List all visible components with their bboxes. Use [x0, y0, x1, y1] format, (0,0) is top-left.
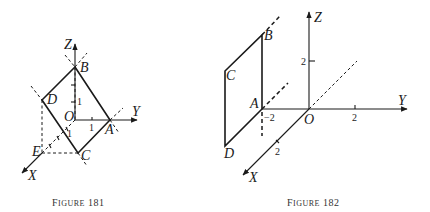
- z-tick-label: 2: [301, 56, 306, 67]
- y-tick-label: 2: [352, 112, 357, 123]
- point-b-label: B: [264, 28, 273, 43]
- point-e-label: E: [31, 144, 41, 159]
- line-dc-ext: [31, 86, 42, 100]
- z-tick-label: 1: [77, 96, 82, 107]
- figure-181-caption: FIGURE 181: [52, 197, 105, 208]
- point-c-label: C: [81, 148, 91, 163]
- figure-182-caption: FIGURE 182: [287, 197, 340, 208]
- y-axis-label: Y: [398, 93, 408, 108]
- origin-label: O: [304, 112, 314, 127]
- point-d-label: D: [223, 146, 234, 161]
- x-tick-label: 1: [67, 128, 72, 139]
- x-axis-label: X: [248, 170, 258, 185]
- parallelogram-abcd: [225, 35, 262, 146]
- origin-label: O: [64, 109, 74, 124]
- point-a-label: A: [104, 122, 114, 137]
- y-axis-label: Y: [132, 104, 142, 119]
- figure-182: Z B 2 C A −2 O 2 Y D 2 X FIGURE 182: [223, 10, 408, 208]
- figures-canvas: Z B D 1 O Y 1 A 1 E C X FIGURE 181 Z: [0, 0, 430, 212]
- line-db-ext: [65, 55, 75, 67]
- x-tick-label: 2: [275, 146, 280, 157]
- figure-181: Z B D 1 O Y 1 A 1 E C X FIGURE 181: [22, 37, 142, 208]
- y-tick-label: 1: [89, 122, 94, 133]
- point-d-label: D: [46, 92, 57, 107]
- z-axis-label: Z: [314, 10, 322, 25]
- point-c-label: C: [226, 68, 236, 83]
- rectangle-abcd: [42, 67, 110, 153]
- point-a-label: A: [249, 96, 259, 111]
- z-axis-label: Z: [64, 37, 72, 52]
- line-ca-ext: [110, 108, 123, 120]
- y-neg-tick-label: −2: [264, 112, 275, 123]
- x-axis-label: X: [27, 168, 37, 183]
- point-b-label: B: [80, 60, 89, 75]
- x-axis-negative: [309, 61, 357, 109]
- line-da-ext: [262, 83, 288, 109]
